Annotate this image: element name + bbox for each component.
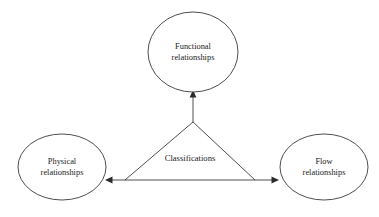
node-flow-label-line2: relationships xyxy=(303,168,346,177)
node-physical-label-line2: relationships xyxy=(41,168,84,177)
node-flow-relationships[interactable] xyxy=(280,134,368,200)
diagram-svg: Functional relationships Physical relati… xyxy=(0,0,379,217)
node-functional-relationships[interactable] xyxy=(148,12,238,92)
arrowhead-right-icon xyxy=(272,177,280,184)
triangle-edge-left xyxy=(125,122,193,180)
node-physical-relationships[interactable] xyxy=(18,134,106,200)
diagram-canvas: Functional relationships Physical relati… xyxy=(0,0,379,217)
node-flow-label-line1: Flow xyxy=(315,157,333,166)
center-label-classifications: Classifications xyxy=(165,153,216,163)
node-functional-label-line2: relationships xyxy=(172,53,215,62)
node-functional-label-line1: Functional xyxy=(175,42,211,51)
triangle-edge-right xyxy=(193,122,255,180)
node-physical-label-line1: Physical xyxy=(48,157,77,166)
arrowhead-left-icon xyxy=(105,177,113,184)
